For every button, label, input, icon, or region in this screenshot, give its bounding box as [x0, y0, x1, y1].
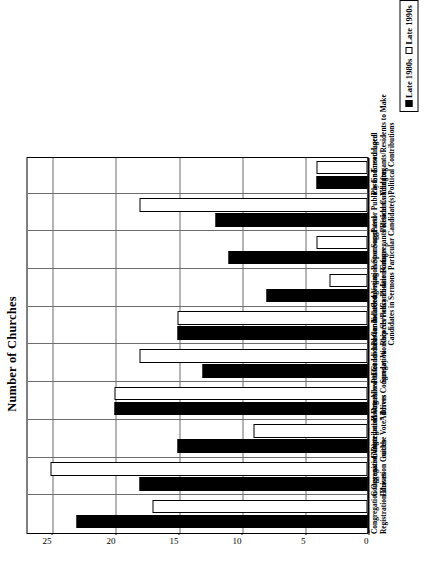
legend-entry-0: Late 1980s	[402, 59, 415, 107]
axis-tick-label-wrap-20: 20	[110, 541, 120, 567]
gridline-25	[52, 158, 53, 533]
bar-0-0	[76, 515, 367, 529]
axis-tick-label-10: 10	[215, 536, 241, 546]
category-separator	[27, 306, 367, 307]
category-label-line: Pastor Invited Candidates to	[370, 346, 379, 384]
category-label-line: Registration Drives	[379, 496, 388, 534]
value-axis-title: Number of Churches	[0, 144, 22, 564]
value-axis: 0510152025	[26, 534, 368, 554]
bar-1-2	[253, 425, 367, 439]
axis-tick-label-wrap-5: 5	[300, 541, 310, 567]
category-label: Congregation Organized “Getout the Vote”…	[370, 421, 387, 459]
category-label-line: Congregation Sponsored	[370, 270, 379, 308]
bar-1-1	[50, 462, 367, 476]
plot-inner	[27, 158, 367, 533]
legend-entry-1: Late 1990s	[402, 5, 415, 53]
category-label: Pastor Allowed Candidates toAddress Cong…	[370, 383, 387, 421]
bar-1-3	[114, 387, 367, 401]
bar-1-5	[177, 311, 367, 325]
bar-0-3	[114, 402, 367, 416]
category-label-line: Pastor Publicly Endorsed Local	[370, 195, 379, 233]
bar-0-6	[266, 289, 367, 303]
category-axis-labels: Congregation Organized VoterRegistration…	[370, 157, 436, 534]
axis-tick-label-15: 15	[152, 536, 178, 546]
bar-0-7	[228, 251, 367, 265]
bar-0-1	[139, 477, 367, 491]
category-separator	[27, 419, 367, 420]
category-label-line: Candidate Forums	[379, 270, 388, 308]
filled-square-icon	[405, 100, 412, 107]
category-label: Pastor Publicly Endorsed LocalPolitical …	[370, 195, 387, 233]
category-separator	[27, 193, 367, 194]
category-label: Pastor EncouragedCongregants/Residents t…	[370, 157, 396, 195]
axis-tick-label-20: 20	[89, 536, 115, 546]
category-separator	[27, 344, 367, 345]
category-label-line: Particular Candidate(s)	[387, 232, 396, 270]
axis-tick-label-wrap-10: 10	[236, 541, 246, 567]
category-separator	[27, 381, 367, 382]
category-label-line: Political Contributions	[387, 157, 396, 195]
category-separator	[27, 457, 367, 458]
category-label: Congregation Distributed VoterEducation …	[370, 459, 387, 497]
category-label-line: Pastor Suggested	[370, 232, 379, 270]
category-label: Congregation Organized VoterRegistration…	[370, 496, 387, 534]
category-label-line: Congregation Organized Voter	[370, 496, 379, 534]
category-label-line: Pastor Encouraged	[370, 157, 379, 195]
bar-0-9	[316, 176, 367, 190]
bar-1-0	[152, 500, 367, 514]
category-label-line: out the Vote” Drives	[379, 421, 388, 459]
figure-page: Number of Churches 0510152025 Congregati…	[0, 0, 439, 582]
bar-1-9	[316, 161, 367, 175]
category-separator	[27, 230, 367, 231]
axis-tick-label-wrap-0: 0	[363, 541, 373, 567]
axis-tick-label-25: 25	[25, 536, 51, 546]
axis-tick-label-wrap-25: 25	[46, 541, 56, 567]
bar-0-8	[215, 213, 367, 227]
chart-legend: Late 1980sLate 1990s	[399, 0, 418, 112]
bar-0-4	[202, 364, 367, 378]
category-label-line: Congregation Distributed Voter	[370, 459, 379, 497]
plot-area	[26, 157, 368, 534]
legend-label: Late 1990s	[403, 5, 413, 44]
bar-1-7	[316, 236, 367, 250]
category-separator	[27, 268, 367, 269]
axis-tick-label-0: 0	[342, 536, 368, 546]
bar-0-2	[177, 440, 367, 454]
category-label-line: Education Guides	[379, 459, 388, 497]
category-label-line: Address Congregation	[379, 383, 388, 421]
axis-tick-label-5: 5	[279, 536, 305, 546]
category-label: Pastor SuggestedCongregants/Residents Vo…	[370, 232, 396, 270]
category-label-line: Sunday Worship Services	[379, 346, 388, 384]
legend-label: Late 1980s	[403, 59, 413, 98]
category-label-line: Political Candidates	[379, 195, 388, 233]
bar-1-4	[139, 349, 367, 363]
bar-1-6	[329, 274, 367, 288]
hollow-square-icon	[405, 47, 412, 54]
category-label: Pastor Included VotingRecords/Policy Pos…	[370, 308, 396, 346]
category-label: Pastor Invited Candidates toSunday Worsh…	[370, 346, 387, 384]
bar-1-8	[139, 198, 367, 212]
rotated-chart-figure: Number of Churches 0510152025 Congregati…	[0, 0, 439, 582]
axis-tick-label-wrap-15: 15	[173, 541, 183, 567]
category-label-line: Pastor Included Voting	[370, 308, 379, 346]
category-separator	[27, 494, 367, 495]
category-label-line: Pastor Allowed Candidates to	[370, 383, 379, 421]
category-label-line: Congregation Organized “Get	[370, 421, 379, 459]
gridline-20	[115, 158, 116, 533]
bar-0-5	[177, 326, 367, 340]
category-label-line: Candidates in Sermons	[387, 308, 396, 346]
category-label: Congregation SponsoredCandidate Forums	[370, 270, 387, 308]
